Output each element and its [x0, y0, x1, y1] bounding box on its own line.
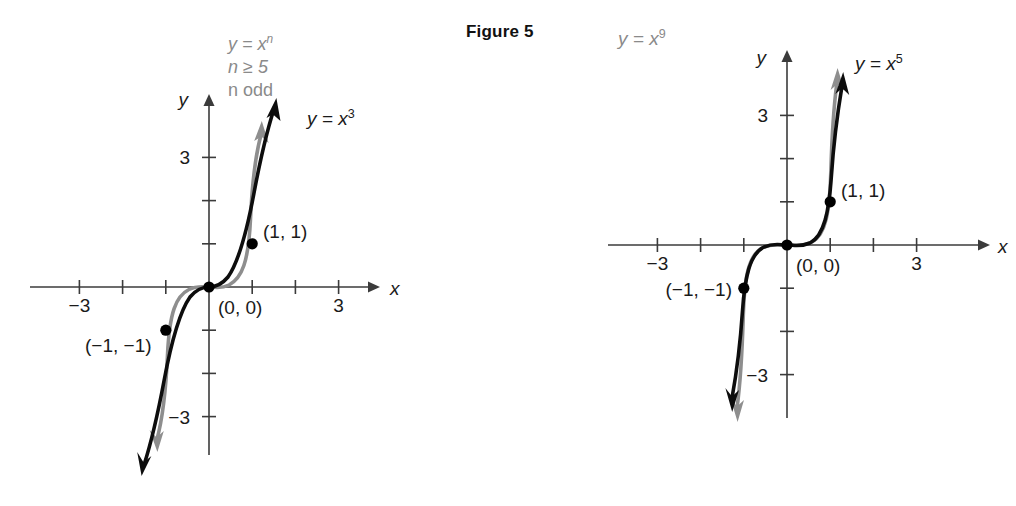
y-axis-name: y [755, 47, 768, 68]
curve-label-right-black-exponent: 5 [896, 52, 903, 66]
y-axis-label-3: 3 [757, 105, 768, 126]
coordinate-plane-left: (1, 1) (0, 0) (−1, −1) −3 3 3 −3 x y [0, 0, 440, 506]
point-label-0-0: (0, 0) [796, 255, 840, 276]
curve-label-right-gray-exponent: 9 [659, 27, 666, 41]
graph-panel-right: y = x9 y = x5 [580, 0, 1016, 506]
annotation-condition-text: n ≥ 5 [228, 57, 268, 77]
annotation-line-condition-n: n ≥ 5 [228, 56, 273, 79]
curve-label-right-gray: y = x9 [618, 27, 666, 50]
point-label-1-1: (1, 1) [263, 221, 307, 242]
y-axis-label--3: −3 [168, 407, 190, 428]
axis-group-left [30, 94, 380, 455]
curve-label-left-black: y = x3 [307, 107, 355, 130]
point-marker-1-1 [825, 196, 836, 207]
point-label-0-0: (0, 0) [218, 297, 262, 318]
y-axis-label-3: 3 [179, 147, 190, 168]
annotation-line-equation: y = xn [228, 28, 273, 56]
x-axis-label-3: 3 [911, 253, 922, 274]
annotation-line-condition-odd: n odd [228, 79, 273, 102]
x-axis-arrowhead [368, 282, 380, 293]
y-axis-name: y [177, 89, 190, 110]
x-axis-name: x [389, 278, 401, 299]
y-axis-label--3: −3 [746, 365, 768, 386]
curve-label-right-gray-text: y = x [618, 28, 659, 49]
curve-label-right-black: y = x5 [855, 52, 903, 75]
coordinate-plane-right: (1, 1) (0, 0) (−1, −1) −3 3 3 −3 x y [580, 0, 1016, 506]
x-axis-label--3: −3 [69, 295, 91, 316]
x-axis-name: x [997, 236, 1009, 257]
point-marker-0-0 [203, 281, 214, 292]
curve-label-right-black-text: y = x [855, 53, 896, 74]
annotation-equation-exponent: n [267, 32, 274, 46]
figure-caption: Figure 5 [466, 22, 534, 42]
x-axis-label-3: 3 [333, 295, 344, 316]
point-marker-neg1-neg1 [160, 325, 171, 336]
curve-label-left-black-exponent: 3 [348, 107, 355, 121]
axis-group-right [608, 50, 990, 418]
annotation-general-power-function: y = xn n ≥ 5 n odd [228, 28, 273, 102]
x-axis-label--3: −3 [647, 253, 669, 274]
annotation-equation-text: y = x [228, 34, 267, 54]
y-axis-arrowhead [204, 94, 215, 106]
graph-panel-left: y = xn n ≥ 5 n odd y = x3 [0, 0, 440, 506]
x-axis-arrowhead [978, 240, 990, 251]
annotation-odd-text: n odd [228, 80, 273, 100]
point-label-1-1: (1, 1) [841, 180, 885, 201]
point-marker-neg1-neg1 [738, 283, 749, 294]
point-label-neg1-neg1: (−1, −1) [85, 335, 152, 356]
point-label-neg1-neg1: (−1, −1) [665, 279, 732, 300]
point-marker-0-0 [781, 239, 792, 250]
y-axis-arrowhead [782, 50, 793, 62]
curve-label-left-black-text: y = x [307, 108, 348, 129]
point-marker-1-1 [247, 238, 258, 249]
curve-left-black-arrowhead-bottom [137, 452, 151, 476]
